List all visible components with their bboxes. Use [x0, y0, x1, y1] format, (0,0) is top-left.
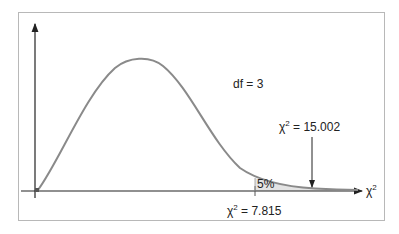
chi-square-plot	[0, 0, 399, 234]
origin-dot	[35, 188, 39, 192]
df-label: df = 3	[233, 77, 263, 91]
x-axis-label: χ2	[366, 183, 377, 198]
tail-percent-label: 5%	[257, 177, 274, 191]
test-statistic-label: χ2 = 15.002	[279, 119, 340, 134]
critical-value-label: χ2 = 7.815	[227, 203, 281, 218]
